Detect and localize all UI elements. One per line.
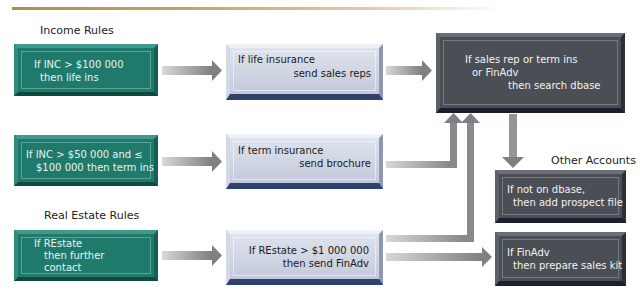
search-dbase-box: If sales rep or term ins or FinAdv then …	[436, 33, 625, 113]
rule-box-realestate: If REstate then further contact	[14, 230, 158, 281]
other-box-sales-kit: If FinAdv then prepare sales kit	[495, 232, 626, 286]
arrow-action2-to-search	[386, 113, 463, 168]
arrow-action1-to-search	[386, 60, 432, 81]
rule-box-income-100k: If INC > $100 000 then life ins	[14, 44, 158, 96]
arrow-realestate-to-action3	[162, 245, 222, 266]
arrow-income2-to-action2	[162, 151, 222, 172]
rule-box-income-50k: If INC > $50 000 and ≤ $100 000 then ter…	[14, 135, 158, 186]
action-box-realestate-finadv: If REstate > $1 000 000 then send FinAdv	[226, 230, 383, 285]
arrow-search-to-prospect	[502, 114, 524, 168]
other-box-prospect-file: If not on dbase, then add prospect file	[495, 170, 626, 223]
income-rules-label: Income Rules	[40, 24, 114, 37]
arrow-income1-to-action1	[162, 60, 222, 81]
other-accounts-label: Other Accounts	[551, 154, 636, 167]
action-box-term-insurance: If term insurance send brochure	[226, 134, 383, 189]
action-box-life-insurance: If life insurance send sales reps	[226, 44, 383, 100]
arrow-action3-to-search	[386, 113, 480, 242]
real-estate-rules-label: Real Estate Rules	[44, 209, 139, 222]
arrow-action3-to-saleskit	[386, 247, 492, 267]
